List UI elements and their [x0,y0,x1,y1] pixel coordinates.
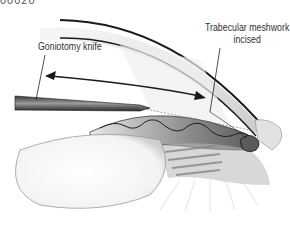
knife-leader-line [36,55,45,100]
goniotomy-knife-label: Goniotomy knife [38,41,102,53]
trabecular-meshwork-label-line1: Trabecular meshwork [205,22,289,34]
trabecular-meshwork-label: Trabecular meshwork incised [205,22,289,46]
trabecular-meshwork [240,135,259,151]
trabecular-meshwork-label-line2: incised [205,34,289,46]
goniotomy-knife [15,96,150,111]
lens [16,134,166,208]
